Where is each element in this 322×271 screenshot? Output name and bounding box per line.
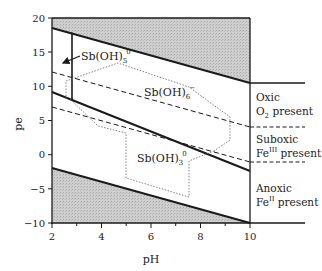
x-ticks bbox=[52, 223, 250, 228]
y-tick-labels: 20 15 10 5 0 −5 −10 bbox=[24, 13, 45, 229]
svg-text:10: 10 bbox=[244, 231, 257, 242]
svg-text:Anoxic: Anoxic bbox=[255, 182, 292, 194]
zone-anoxic-label: Anoxic FeII present bbox=[255, 182, 319, 208]
svg-text:FeIII present: FeIII present bbox=[256, 146, 322, 159]
zone-suboxic-label: Suboxic FeIII present bbox=[256, 133, 322, 159]
svg-text:Sb(OH)30: Sb(OH)30 bbox=[137, 150, 187, 167]
svg-text:5: 5 bbox=[39, 115, 45, 126]
pe-ph-diagram: 20 15 10 5 0 −5 −10 2 4 6 8 10 pH pe bbox=[0, 0, 322, 271]
zone-oxic-label: Oxic O2 present bbox=[256, 91, 314, 120]
svg-text:0: 0 bbox=[39, 149, 45, 160]
svg-text:4: 4 bbox=[98, 231, 104, 242]
sb-oh6-label: Sb(OH)6− bbox=[144, 84, 195, 101]
svg-text:Sb(OH)50: Sb(OH)50 bbox=[81, 48, 131, 65]
svg-text:20: 20 bbox=[32, 13, 45, 24]
svg-text:2: 2 bbox=[49, 231, 55, 242]
svg-text:Sb(OH)6−: Sb(OH)6− bbox=[144, 84, 195, 101]
svg-text:8: 8 bbox=[197, 231, 203, 242]
svg-text:6: 6 bbox=[148, 231, 154, 242]
svg-text:−10: −10 bbox=[24, 218, 45, 229]
svg-text:−5: −5 bbox=[30, 184, 45, 195]
y-axis-title: pe bbox=[12, 117, 25, 131]
svg-text:Oxic: Oxic bbox=[256, 91, 280, 103]
svg-text:10: 10 bbox=[32, 81, 45, 92]
sb-oh3-label: Sb(OH)30 bbox=[137, 150, 187, 167]
x-axis-title: pH bbox=[143, 253, 160, 266]
sb-oh5-label: Sb(OH)50 bbox=[63, 48, 131, 65]
x-tick-labels: 2 4 6 8 10 bbox=[49, 231, 257, 242]
svg-text:FeII present: FeII present bbox=[256, 195, 319, 208]
oxic-suboxic-dashed bbox=[52, 72, 250, 127]
svg-text:15: 15 bbox=[32, 47, 45, 58]
svg-text:O2 present: O2 present bbox=[256, 105, 314, 120]
svg-text:Suboxic: Suboxic bbox=[256, 133, 298, 145]
